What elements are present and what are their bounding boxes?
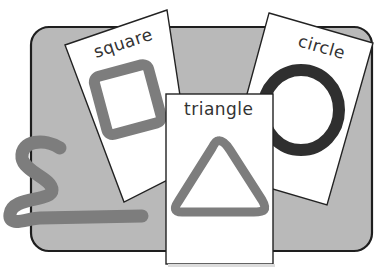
shape-cards-illustration: square circle triangle — [0, 0, 379, 274]
triangle-card-label: triangle — [184, 99, 254, 119]
triangle-card[interactable]: triangle — [166, 94, 275, 267]
